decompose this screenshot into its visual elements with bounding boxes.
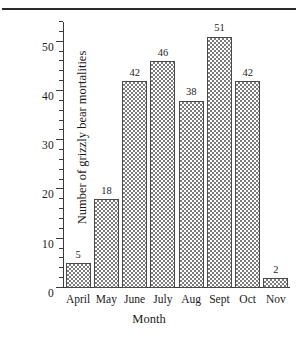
top-divider-rule — [2, 8, 296, 10]
y-axis-minor-tick — [59, 51, 63, 52]
bar-slot: 51 — [207, 22, 232, 288]
y-axis-minor-tick — [59, 120, 63, 121]
bar-value-label: 42 — [129, 68, 140, 79]
y-axis-major-tick — [56, 41, 63, 42]
y-axis-minor-tick — [59, 70, 63, 71]
plot-area: 01020304050 51842463851422 AprilMayJuneJ… — [63, 22, 290, 288]
y-axis-title: Number of grizzly bear mortalities — [75, 13, 90, 263]
bar-chart-figure: 01020304050 51842463851422 AprilMayJuneJ… — [0, 0, 298, 349]
bar-value-label: 51 — [214, 23, 225, 34]
y-axis-minor-tick — [59, 31, 63, 32]
y-axis-minor-tick — [59, 267, 63, 268]
bar — [207, 37, 232, 288]
y-axis-minor-tick — [59, 169, 63, 170]
y-axis-minor-tick — [59, 159, 63, 160]
bar — [179, 101, 204, 288]
y-axis-major-tick — [56, 139, 63, 140]
bar — [263, 278, 288, 288]
y-axis-minor-tick — [59, 248, 63, 249]
y-axis-minor-tick — [59, 208, 63, 209]
x-axis-tick-label: Sept — [209, 294, 229, 306]
y-axis-minor-tick — [59, 129, 63, 130]
bar-slot: 42 — [122, 22, 147, 288]
y-axis-minor-tick — [59, 110, 63, 111]
y-axis-minor-tick — [59, 257, 63, 258]
bar-series: 51842463851422 — [64, 22, 290, 288]
bar-slot: 2 — [263, 22, 288, 288]
bar — [150, 61, 175, 288]
bar — [66, 263, 91, 288]
bar — [235, 81, 260, 288]
y-axis-major-tick — [56, 188, 63, 189]
x-axis-tick-label: June — [124, 294, 145, 306]
bar — [122, 81, 147, 288]
y-axis-major-tick — [56, 287, 63, 288]
x-axis-tick-label: Aug — [181, 294, 201, 306]
bar-value-label: 46 — [158, 48, 169, 59]
bar-slot: 38 — [179, 22, 204, 288]
y-axis-minor-tick — [59, 80, 63, 81]
y-axis-minor-tick — [59, 100, 63, 101]
y-axis-minor-tick — [59, 21, 63, 22]
bar-slot: 46 — [150, 22, 175, 288]
y-axis-minor-tick — [59, 149, 63, 150]
bar — [94, 199, 119, 288]
x-axis-tick-label: May — [96, 294, 117, 306]
y-axis-minor-tick — [59, 277, 63, 278]
y-axis-minor-tick — [59, 218, 63, 219]
y-axis-minor-tick — [59, 60, 63, 61]
y-axis-minor-tick — [59, 179, 63, 180]
bar-value-label: 42 — [242, 68, 253, 79]
y-axis-major-tick — [56, 238, 63, 239]
bar-slot: 42 — [235, 22, 260, 288]
x-axis-tick-label: Oct — [239, 294, 256, 306]
x-axis-tick-label: Nov — [266, 294, 286, 306]
y-axis-minor-tick — [59, 228, 63, 229]
bar-value-label: 2 — [273, 265, 278, 276]
bar-slot: 18 — [94, 22, 119, 288]
x-axis-tick-label: July — [153, 294, 172, 306]
bar-value-label: 38 — [186, 87, 197, 98]
x-axis-title: Month — [0, 312, 298, 327]
bar-value-label: 18 — [101, 186, 112, 197]
y-axis-minor-tick — [59, 198, 63, 199]
x-axis-tick-label: April — [66, 294, 90, 306]
y-axis-major-tick — [56, 90, 63, 91]
